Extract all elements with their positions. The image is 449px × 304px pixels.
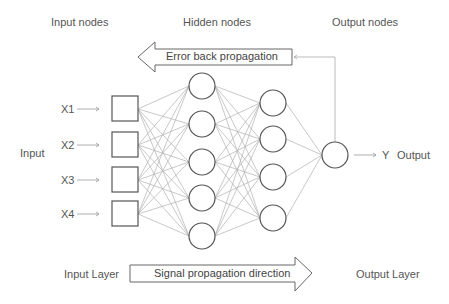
- input-layer-label: Input Layer: [64, 268, 119, 280]
- hidden-nodes-header: Hidden nodes: [183, 16, 251, 28]
- signal-arrow-label: Signal propagation direction: [154, 267, 290, 279]
- output-nodes-header: Output nodes: [332, 16, 398, 28]
- connection-edges: [138, 86, 322, 236]
- edge: [286, 155, 322, 218]
- output-variable-label: Y: [382, 149, 389, 161]
- hidden1-node-2: [189, 111, 215, 137]
- neural-network-diagram: Input nodes Hidden nodes Output nodes Er…: [0, 0, 449, 304]
- edge: [215, 103, 260, 198]
- input-nodes-header: Input nodes: [51, 16, 109, 28]
- error-arrow-label: Error back propagation: [166, 50, 278, 62]
- input-label-x2: X2: [61, 139, 74, 151]
- hidden1-node-1: [189, 73, 215, 99]
- input-label-x4: X4: [61, 208, 74, 220]
- hidden2-node-3: [260, 164, 286, 190]
- input-label-x1: X1: [61, 103, 74, 115]
- input-node-1: [112, 96, 138, 121]
- edge: [138, 145, 189, 162]
- edge: [138, 162, 189, 180]
- output-side-label: Output: [397, 149, 430, 161]
- hidden2-node-1: [260, 90, 286, 116]
- input-label-x3: X3: [61, 174, 74, 186]
- input-node-3: [112, 167, 138, 192]
- hidden1-node-3: [189, 149, 215, 175]
- edge: [215, 86, 260, 103]
- edge: [286, 155, 322, 177]
- edge: [138, 86, 189, 145]
- output-layer-label: Output Layer: [356, 268, 420, 280]
- hidden2-node-2: [260, 126, 286, 152]
- output-node: [322, 142, 348, 168]
- input-node-4: [112, 201, 138, 226]
- input-node-2: [112, 132, 138, 157]
- edge: [138, 86, 189, 180]
- feedback-line: [294, 55, 335, 142]
- hidden1-node-4: [189, 185, 215, 211]
- hidden2-node-4: [260, 205, 286, 231]
- edge: [215, 124, 260, 218]
- hidden1-node-5: [189, 223, 215, 249]
- input-side-label: Input: [20, 147, 44, 159]
